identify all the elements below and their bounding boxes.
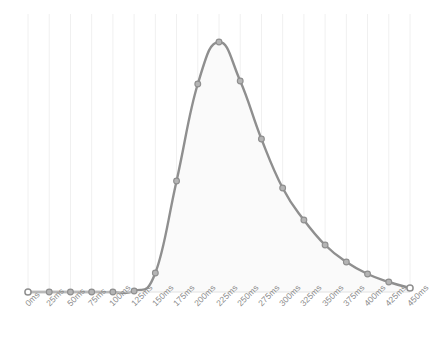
- data-point-marker[interactable]: [195, 81, 201, 87]
- data-point-marker[interactable]: [152, 270, 158, 276]
- data-point-marker[interactable]: [407, 285, 413, 291]
- data-point-marker[interactable]: [259, 136, 265, 142]
- area-fill-path: [28, 42, 410, 293]
- data-point-marker[interactable]: [280, 185, 286, 191]
- data-point-marker[interactable]: [46, 289, 52, 295]
- data-point-marker[interactable]: [237, 78, 243, 84]
- chart-container: 0ms25ms50ms75ms100ms125ms150ms175ms200ms…: [0, 0, 431, 355]
- data-point-marker[interactable]: [301, 217, 307, 223]
- data-point-marker[interactable]: [89, 289, 95, 295]
- data-point-marker[interactable]: [174, 178, 180, 184]
- data-point-marker[interactable]: [365, 271, 371, 277]
- data-point-marker[interactable]: [110, 289, 116, 295]
- data-point-marker[interactable]: [131, 288, 137, 294]
- data-point-marker[interactable]: [343, 259, 349, 265]
- data-point-marker[interactable]: [68, 289, 74, 295]
- line-area-chart-plot: [0, 0, 431, 355]
- data-point-marker[interactable]: [216, 39, 222, 45]
- data-point-marker[interactable]: [386, 279, 392, 285]
- data-point-marker[interactable]: [25, 289, 31, 295]
- data-point-marker[interactable]: [322, 242, 328, 248]
